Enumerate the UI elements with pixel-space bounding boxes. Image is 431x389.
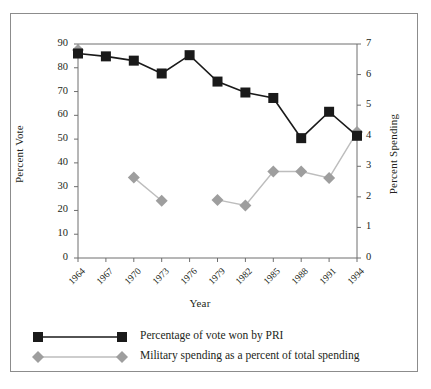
y-axis-right-tick-1: 1 — [366, 220, 392, 231]
legend-swatch-diamond-line — [30, 347, 130, 367]
y-axis-right-tick-2: 2 — [366, 190, 392, 201]
y-axis-left-tick-20: 20 — [42, 203, 68, 214]
y-axis-left-tick-0: 0 — [42, 251, 68, 262]
x-axis-title: Year — [140, 297, 260, 309]
chart-frame-border — [10, 13, 418, 372]
y-axis-right-tick-3: 3 — [366, 159, 392, 170]
y-axis-left-tick-50: 50 — [42, 132, 68, 143]
y-axis-right-tick-0: 0 — [366, 251, 392, 262]
chart-figure: Percent Vote Percent Spending Year 01020… — [0, 0, 431, 389]
y-axis-left-tick-80: 80 — [42, 61, 68, 72]
y-axis-left-title: Percent Vote — [13, 109, 25, 199]
legend-swatch-square-line — [30, 327, 130, 347]
y-axis-right-tick-5: 5 — [366, 98, 392, 109]
y-axis-right-tick-6: 6 — [366, 68, 392, 79]
legend-label-vote: Percentage of vote won by PRI — [140, 329, 283, 341]
y-axis-left-tick-30: 30 — [42, 180, 68, 191]
y-axis-left-tick-40: 40 — [42, 156, 68, 167]
y-axis-left-tick-10: 10 — [42, 227, 68, 238]
legend-item-spending: Military spending as a percent of total … — [30, 347, 410, 367]
chart-legend: Percentage of vote won by PRI Military s… — [30, 327, 410, 367]
y-axis-right-tick-4: 4 — [366, 129, 392, 140]
y-axis-left-tick-90: 90 — [42, 37, 68, 48]
legend-label-spending: Military spending as a percent of total … — [140, 349, 359, 361]
y-axis-left-tick-70: 70 — [42, 85, 68, 96]
legend-item-vote: Percentage of vote won by PRI — [30, 327, 410, 347]
y-axis-right-tick-7: 7 — [366, 37, 392, 48]
y-axis-left-tick-60: 60 — [42, 108, 68, 119]
